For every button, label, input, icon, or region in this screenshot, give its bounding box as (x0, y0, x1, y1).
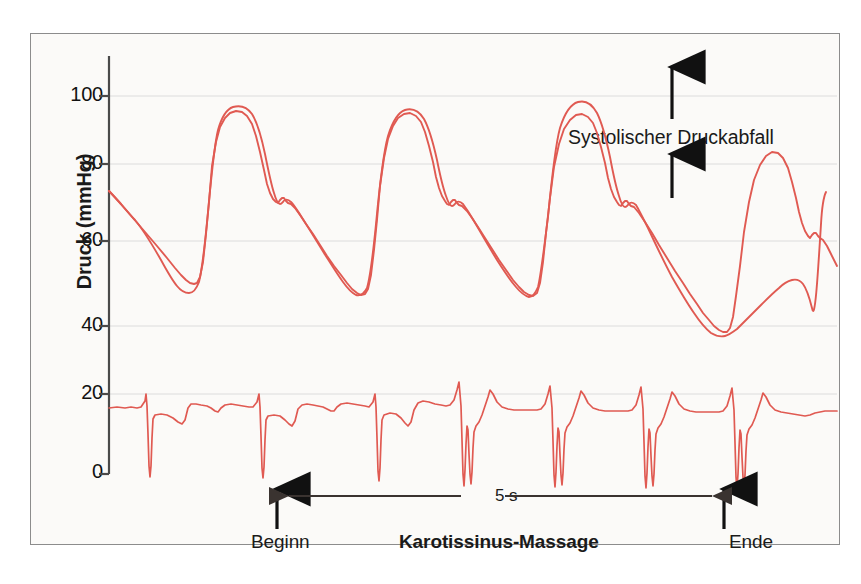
pressure-plot (31, 34, 841, 546)
gridlines (109, 96, 837, 394)
venous-pressure-trace (109, 382, 837, 489)
figure-panel: 100 80 60 40 20 0 Druck (mmHg) Systolisc… (30, 33, 840, 545)
y-axis-spine (99, 56, 109, 474)
arterial-pressure-detail (109, 111, 837, 332)
